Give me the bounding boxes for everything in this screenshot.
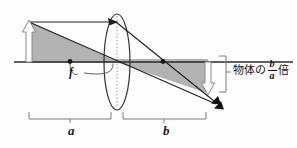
lens-ray-diagram: a b f 物体の b a 倍 bbox=[0, 0, 297, 148]
focal-point-left-dot-icon bbox=[68, 59, 73, 64]
bracket-b bbox=[123, 112, 206, 123]
label-object-distance-a: a bbox=[68, 124, 75, 137]
magnification-prefix-text: 物体の bbox=[233, 65, 266, 76]
focal-leader-right-curve bbox=[84, 64, 113, 74]
magnification-numerator: b bbox=[269, 59, 276, 70]
magnification-suffix-text: 倍 bbox=[278, 65, 289, 76]
bracket-a bbox=[29, 112, 111, 123]
label-focal-length-f: f bbox=[69, 66, 73, 78]
magnification-annotation: 物体の b a 倍 bbox=[233, 59, 289, 82]
magnification-denominator: a bbox=[269, 71, 276, 82]
dimension-brackets bbox=[29, 112, 206, 123]
shaded-triangles bbox=[29, 22, 208, 93]
magnification-fraction: b a bbox=[268, 59, 277, 82]
focal-point-right-dot-icon bbox=[161, 59, 166, 64]
label-image-distance-b: b bbox=[163, 124, 170, 137]
